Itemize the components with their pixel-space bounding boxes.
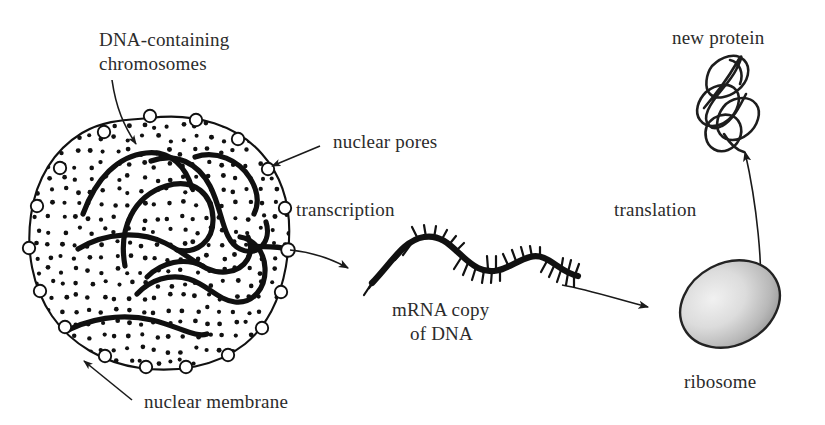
nuclear-membrane-leader-arrow bbox=[84, 361, 132, 400]
nuclear-pore bbox=[275, 286, 287, 298]
label-chromosomes-line2: chromosomes bbox=[99, 53, 207, 74]
mrna-base-ticks bbox=[364, 225, 579, 295]
nucleus-group bbox=[19, 107, 295, 381]
label-nuclear-membrane: nuclear membrane bbox=[144, 391, 288, 412]
nuclear-pore bbox=[232, 133, 244, 145]
nuclear-pore bbox=[23, 242, 35, 254]
nuclear-pore bbox=[34, 285, 46, 297]
label-chromosomes-line1: DNA-containing bbox=[99, 29, 230, 50]
nuclear-pore bbox=[54, 162, 66, 174]
label-translation: translation bbox=[614, 199, 697, 220]
protein-group bbox=[697, 56, 759, 152]
mrna-backbone bbox=[372, 237, 578, 283]
nuclear-pore bbox=[190, 114, 202, 126]
nuclear-pore bbox=[256, 322, 268, 334]
diagram-scene: DNA-containing chromosomes nuclear pores… bbox=[0, 0, 825, 425]
label-ribosome: ribosome bbox=[684, 371, 756, 392]
transcription-arrow bbox=[290, 250, 348, 268]
label-mrna-line2: of DNA bbox=[410, 323, 473, 344]
ribosome-body bbox=[665, 243, 795, 364]
nuclear-pore bbox=[31, 200, 43, 212]
nuclear-pore bbox=[144, 110, 156, 122]
nuclear-pore bbox=[262, 163, 274, 175]
diagram-canvas: DNA-containing chromosomes nuclear pores… bbox=[0, 0, 825, 425]
nuclear-pore bbox=[59, 321, 71, 333]
nuclear-pore bbox=[140, 361, 152, 373]
nuclear-pore bbox=[180, 361, 192, 373]
nuclear-pore bbox=[99, 350, 111, 362]
ribosome-group bbox=[665, 243, 795, 364]
mrna-to-ribosome-arrow bbox=[562, 285, 648, 307]
nuclear-pore bbox=[222, 349, 234, 361]
label-mrna-line1: mRNA copy bbox=[392, 299, 490, 320]
protein-chain bbox=[697, 56, 759, 152]
label-transcription: transcription bbox=[296, 199, 395, 220]
label-nuclear-pores: nuclear pores bbox=[333, 131, 437, 152]
nuclear-pore bbox=[279, 202, 291, 214]
nuclear-pore bbox=[98, 126, 110, 138]
label-new-protein: new protein bbox=[672, 27, 765, 48]
nuclear-pores-leader-arrow bbox=[272, 146, 320, 166]
mrna-strand-group bbox=[364, 225, 579, 295]
